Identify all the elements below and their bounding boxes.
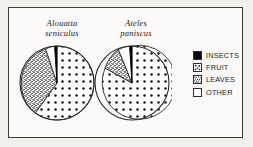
legend-label-other: OTHER [206, 88, 233, 97]
leaves-swatch-icon [193, 75, 202, 84]
legend-item-insects: INSECTS [193, 49, 251, 61]
legend-label-leaves: LEAVES [206, 75, 235, 84]
legend-label-fruit: FRUIT [206, 63, 229, 72]
chart-legend: INSECTS FRUIT [193, 49, 251, 99]
pie-title-alouatta-genus: Alouatta [23, 18, 101, 28]
fruit-swatch-icon [193, 63, 202, 72]
pie-title-ateles: Ateles paniscus [97, 18, 175, 38]
pie-chart-alouatta [17, 43, 97, 123]
insects-swatch-icon [193, 51, 202, 60]
legend-item-fruit: FRUIT [193, 61, 251, 73]
pie-title-ateles-genus: Ateles [97, 18, 175, 28]
legend-item-leaves: LEAVES [193, 74, 251, 86]
pie-chart-alouatta-svg [17, 43, 97, 123]
other-swatch-icon [193, 88, 202, 97]
figure-frame: Alouatta seniculus [8, 7, 243, 138]
pie-title-alouatta: Alouatta seniculus [23, 18, 101, 38]
legend-label-insects: INSECTS [206, 51, 239, 60]
pie-chart-ateles [92, 43, 172, 123]
legend-item-other: OTHER [193, 86, 251, 98]
figure-root: Alouatta seniculus [0, 0, 253, 147]
pie-chart-ateles-svg [92, 43, 172, 123]
pie-title-alouatta-species: seniculus [23, 28, 101, 38]
pie-title-ateles-species: paniscus [97, 28, 175, 38]
